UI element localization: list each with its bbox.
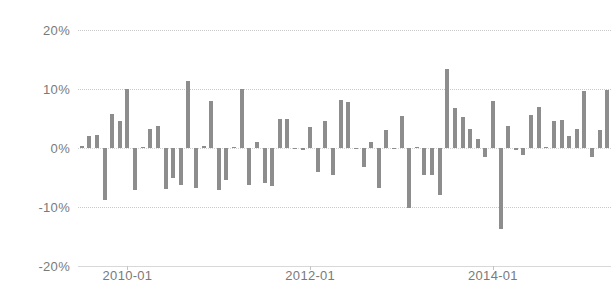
bar (301, 148, 305, 150)
plot-area (78, 30, 611, 266)
bar (362, 148, 366, 167)
bar (232, 147, 236, 148)
x-axis-tick-labels: 2010-012012-012014-01 (78, 268, 611, 292)
bar (582, 91, 586, 148)
bar (499, 148, 503, 229)
bar (186, 81, 190, 148)
bar (202, 146, 206, 148)
bar (308, 127, 312, 148)
bar (384, 130, 388, 148)
bar (240, 89, 244, 148)
bar (80, 146, 84, 148)
bar (415, 147, 419, 148)
bar (217, 148, 221, 190)
bar (278, 119, 282, 149)
bar (164, 148, 168, 189)
bar (323, 121, 327, 148)
bar (293, 148, 297, 149)
bar (194, 148, 198, 188)
bar (392, 148, 396, 149)
bar (567, 136, 571, 148)
bar (400, 116, 404, 148)
bar (453, 108, 457, 148)
y-axis-label: 0% (51, 141, 70, 156)
x-axis-label: 2012-01 (285, 268, 335, 283)
bar (354, 148, 358, 149)
bar (331, 148, 335, 175)
bar (560, 120, 564, 148)
bar (224, 148, 228, 180)
bar-chart: 20%10%0%-10%-20% 2010-012012-012014-01 (0, 0, 616, 308)
bar (118, 121, 122, 148)
bar (148, 129, 152, 148)
x-axis-label: 2010-01 (103, 268, 153, 283)
bar (605, 90, 609, 148)
bar (544, 147, 548, 148)
bar (552, 121, 556, 148)
bar (575, 129, 579, 148)
y-axis-label: 20% (43, 23, 70, 38)
bar (468, 129, 472, 148)
y-axis-label: -10% (38, 200, 70, 215)
bar (103, 148, 107, 200)
bar (285, 119, 289, 149)
bar (590, 148, 594, 157)
bar (156, 126, 160, 148)
bar (133, 148, 137, 190)
bar (270, 148, 274, 186)
bar (491, 101, 495, 148)
bar (514, 148, 518, 150)
bar (369, 142, 373, 148)
bar (171, 148, 175, 178)
bar (521, 148, 525, 155)
bar (209, 101, 213, 148)
bar (483, 148, 487, 157)
bar (255, 142, 259, 148)
bar (422, 148, 426, 175)
bar (95, 135, 99, 148)
x-axis-label: 2014-01 (468, 268, 518, 283)
bar (247, 148, 251, 185)
bar (346, 102, 350, 148)
bar (377, 148, 381, 188)
bar (179, 148, 183, 185)
y-axis-label: -20% (38, 259, 70, 274)
bar (506, 126, 510, 148)
bar (430, 148, 434, 175)
bar (316, 148, 320, 172)
bar (339, 100, 343, 148)
bar (461, 117, 465, 148)
bar (110, 114, 114, 148)
bar (407, 148, 411, 208)
bar (537, 107, 541, 148)
bar (87, 136, 91, 148)
bar (598, 130, 602, 148)
bar (125, 89, 129, 148)
bar (529, 115, 533, 148)
bar (438, 148, 442, 195)
bar (445, 69, 449, 148)
y-axis-label: 10% (43, 82, 70, 97)
bar (476, 139, 480, 148)
bar (141, 147, 145, 148)
bars-layer (78, 30, 611, 266)
y-axis-tick-labels: 20%10%0%-10%-20% (0, 30, 70, 266)
bar (263, 148, 267, 183)
